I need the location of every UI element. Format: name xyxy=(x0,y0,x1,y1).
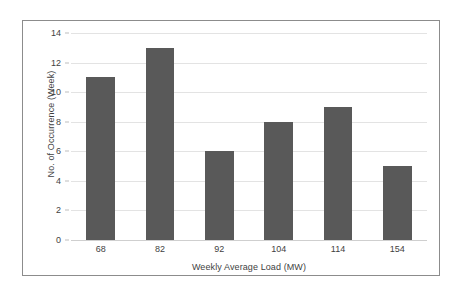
bar xyxy=(146,48,174,240)
bar-chart: No. of Occurrence (Week) 02468101214 688… xyxy=(23,21,439,275)
y-axis-tick-label: 12 xyxy=(51,58,61,68)
y-axis-tick-labels: 02468101214 xyxy=(23,33,69,240)
y-axis-tick-label: 14 xyxy=(51,28,61,38)
x-axis-tick-label: 104 xyxy=(271,244,286,254)
y-axis-tick-mark xyxy=(65,33,69,34)
bar xyxy=(324,107,352,240)
bars-layer xyxy=(71,33,427,240)
x-axis-tick-labels: 688292104114154 xyxy=(71,244,427,260)
y-axis-tick-mark xyxy=(65,92,69,93)
gridline xyxy=(71,240,427,241)
y-axis-tick-mark xyxy=(65,62,69,63)
bar xyxy=(383,166,411,240)
bar xyxy=(86,77,114,240)
x-axis-tick-label: 82 xyxy=(155,244,165,254)
y-axis-tick-mark xyxy=(65,240,69,241)
x-axis-tick-label: 114 xyxy=(331,244,345,254)
y-axis-tick-label: 4 xyxy=(56,176,61,186)
y-axis-tick-mark xyxy=(65,210,69,211)
y-axis-tick-label: 2 xyxy=(56,205,61,215)
y-axis-tick-mark xyxy=(65,151,69,152)
y-axis-tick-label: 10 xyxy=(51,87,61,97)
plot-region xyxy=(71,33,427,240)
x-axis-tick-label: 92 xyxy=(214,244,224,254)
y-axis-tick-mark xyxy=(65,180,69,181)
x-axis-tick-label: 68 xyxy=(96,244,106,254)
y-axis-tick-label: 8 xyxy=(56,117,61,127)
y-axis-tick-label: 6 xyxy=(56,146,61,156)
x-axis-tick-label: 154 xyxy=(390,244,405,254)
x-axis-title: Weekly Average Load (MW) xyxy=(71,262,427,272)
bar xyxy=(205,151,233,240)
y-axis-tick-mark xyxy=(65,121,69,122)
bar xyxy=(264,122,292,240)
y-axis-tick-label: 0 xyxy=(56,235,61,245)
figure-frame: No. of Occurrence (Week) 02468101214 688… xyxy=(22,20,440,276)
